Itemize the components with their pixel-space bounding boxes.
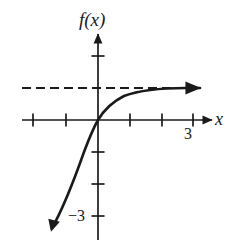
y-axis-label: f(x) xyxy=(79,10,105,29)
y-axis xyxy=(92,34,105,240)
x-tick-label-3: 3 xyxy=(184,126,192,142)
y-tick-label-negative-3: −3 xyxy=(68,208,85,224)
graph-canvas xyxy=(0,0,232,252)
x-axis-label: x xyxy=(215,110,223,128)
function-graph-figure: f(x) x 3 −3 xyxy=(0,0,232,252)
curve-start-arrowhead xyxy=(45,219,60,234)
